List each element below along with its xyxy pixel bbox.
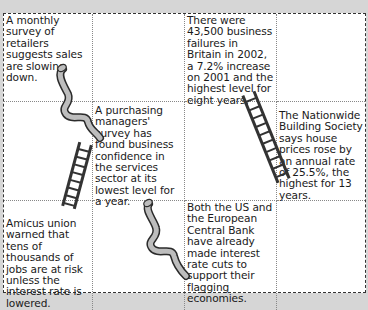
cell-r0-c1 xyxy=(93,14,185,102)
board-grid: A monthly survey of retailers suggests s… xyxy=(4,14,365,292)
cell-r2-c1 xyxy=(93,201,185,310)
cell-r1-c2 xyxy=(185,102,277,201)
cell-r0-c3 xyxy=(277,14,365,102)
cell-r1-c1: A purchasing managers' survey has found … xyxy=(93,102,185,201)
snakes-and-ladders-board: A monthly survey of retailers suggests s… xyxy=(3,13,366,293)
cell-r0-c2: There were 43,500 business failures in B… xyxy=(185,14,277,102)
cell-r2-c2: Both the US and the European Central Ban… xyxy=(185,201,277,310)
cell-r2-c3 xyxy=(277,201,365,310)
cell-r0-c0: A monthly survey of retailers suggests s… xyxy=(4,14,93,102)
cell-r1-c3: The Nationwide Building Society says hou… xyxy=(277,102,365,201)
cell-r1-c0 xyxy=(4,102,93,201)
cell-r2-c0: Amicus union warned that tens of thousan… xyxy=(4,201,93,310)
